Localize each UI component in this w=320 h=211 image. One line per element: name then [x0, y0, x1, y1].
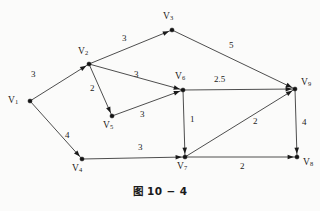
edge-weight-label: 2	[240, 162, 245, 171]
figure-caption: 图 10 − 4	[0, 183, 320, 198]
graph-node-v2	[87, 62, 91, 66]
node-label-v9: V9	[301, 78, 311, 88]
edge-weight-label: 5	[229, 41, 234, 50]
edge-arrowhead	[106, 106, 111, 113]
edge-arrowhead	[286, 83, 293, 88]
edge-weight-label: 2.5	[214, 75, 225, 84]
graph-canvas	[0, 0, 320, 211]
node-label-v3: V3	[163, 12, 173, 22]
graph-node-v1	[28, 99, 32, 103]
edge-weight-label: 1	[190, 115, 195, 124]
edge-arrowhead	[176, 155, 182, 160]
graph-edge	[89, 30, 172, 64]
edge-arrowhead	[286, 91, 292, 96]
graph-node-v4	[80, 157, 84, 161]
graph-node-v8	[295, 155, 299, 159]
graph-node-v3	[170, 28, 174, 32]
edge-arrowhead	[162, 31, 169, 35]
node-label-v6: V6	[175, 72, 185, 82]
graph-edge	[183, 89, 295, 90]
node-label-v2: V2	[78, 47, 88, 57]
graph-edge	[183, 90, 185, 157]
edge-weight-label: 3	[31, 70, 36, 79]
graph-edge	[82, 157, 185, 159]
figure-container: 34323532.513224 V1V2V3V4V5V6V7V8V9 图 10 …	[0, 0, 320, 211]
graph-node-v6	[181, 88, 185, 92]
edge-arrowhead	[294, 148, 299, 154]
graph-edge	[30, 101, 82, 159]
node-label-v5: V5	[103, 121, 113, 131]
edge-arrowhead	[182, 148, 187, 154]
edge-arrowhead	[173, 85, 180, 89]
arrowheads-layer	[74, 31, 299, 159]
edge-arrowhead	[288, 155, 294, 160]
edge-weight-label: 3	[134, 70, 139, 79]
graph-edge	[295, 89, 297, 157]
edge-weight-label: 3	[122, 34, 127, 43]
edges-layer	[30, 30, 297, 159]
node-label-v8: V8	[303, 158, 313, 168]
edge-weight-label: 4	[302, 118, 307, 127]
graph-edge	[172, 30, 295, 89]
graph-node-v5	[110, 114, 114, 118]
edge-arrowhead	[173, 91, 180, 95]
graph-edge	[185, 89, 295, 157]
edge-weight-label: 2	[90, 84, 95, 93]
edge-weight-label: 3	[138, 143, 143, 152]
edge-weight-label: 3	[140, 110, 145, 119]
node-label-v7: V7	[177, 162, 187, 172]
edge-arrowhead	[80, 66, 86, 71]
nodes-layer	[28, 28, 299, 161]
edge-weight-label: 2	[253, 117, 258, 126]
edge-weight-label: 4	[65, 131, 70, 140]
graph-node-v7	[183, 155, 187, 159]
graph-edge	[112, 90, 183, 116]
graph-node-v9	[293, 87, 297, 91]
node-label-v1: V1	[8, 96, 18, 106]
node-label-v4: V4	[72, 164, 82, 174]
graph-edge	[30, 64, 89, 101]
